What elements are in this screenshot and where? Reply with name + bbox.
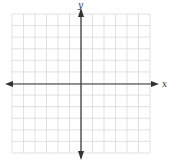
y-axis-label: y: [77, 0, 84, 10]
coordinate-plane: y x: [0, 0, 169, 165]
x-axis-left-arrow-icon: [5, 81, 13, 87]
x-axis: [5, 81, 159, 87]
x-axis-right-arrow-icon: [151, 81, 159, 87]
x-axis-label: x: [162, 79, 167, 89]
y-axis-down-arrow-icon: [78, 151, 84, 160]
